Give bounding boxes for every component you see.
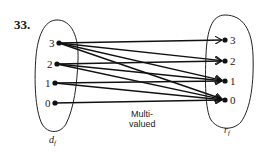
edge-3-to-3 (59, 40, 222, 43)
edge-0-to-0 (55, 100, 222, 103)
caption-line-2: valued (129, 119, 156, 129)
range-nodes: 3210 (222, 34, 236, 106)
edge-1-to-0 (55, 83, 222, 100)
domain-node-label: 2 (47, 58, 53, 70)
edges-group (55, 40, 222, 103)
edge-1-to-1 (55, 81, 222, 83)
domain-node-label: 1 (45, 77, 51, 89)
range-set-label: rf (224, 124, 231, 137)
domain-node-1 (52, 80, 57, 85)
domain-nodes: 3210 (45, 37, 62, 109)
domain-node-label: 3 (49, 37, 55, 49)
range-node-2 (222, 58, 227, 63)
problem-number: 33. (14, 17, 30, 32)
range-node-label: 0 (230, 94, 236, 106)
range-node-label: 3 (230, 34, 236, 46)
range-set-boundary (206, 15, 254, 128)
domain-node-3 (56, 40, 61, 45)
domain-node-0 (52, 100, 57, 105)
domain-set-boundary (35, 20, 78, 132)
edge-2-to-1 (57, 64, 222, 81)
range-node-0 (222, 97, 227, 102)
range-node-3 (222, 37, 227, 42)
range-node-label: 1 (230, 75, 236, 87)
domain-set-label: df (49, 134, 57, 147)
range-node-1 (222, 78, 227, 83)
mapping-diagram: 33. 3210 3210 df rf Multi- valued (0, 0, 269, 154)
domain-node-label: 0 (45, 97, 51, 109)
caption-line-1: Multi- (131, 109, 153, 119)
range-node-label: 2 (230, 55, 236, 67)
domain-node-2 (54, 61, 59, 66)
